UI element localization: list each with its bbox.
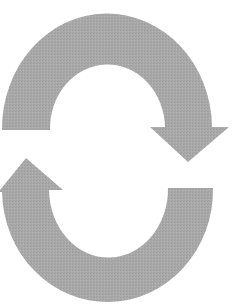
- cycle-arrows-icon: [0, 0, 246, 305]
- bottom-arrow-icon: [0, 158, 213, 302]
- top-arrow-icon: [2, 13, 229, 162]
- cycle-arrows-svg: [0, 0, 246, 305]
